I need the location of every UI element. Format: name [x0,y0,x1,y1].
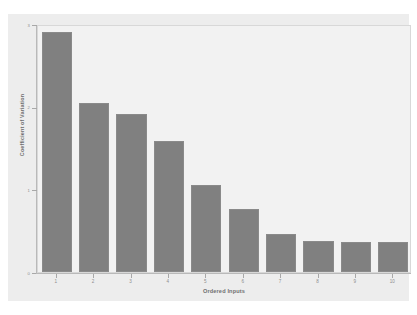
bar [79,103,109,272]
x-axis-tick-label: 9 [343,279,367,285]
y-axis-tick-label: 0 [14,271,30,276]
y-axis-line [36,25,37,274]
chart-figure: 0123 Coefficient of Variation 1234567891… [0,0,417,315]
x-axis-tick-label: 8 [306,279,330,285]
bar [266,234,296,272]
x-axis-tick-label: 1 [44,279,68,285]
x-axis-tick-mark [318,274,319,278]
bar [378,242,408,272]
bars-layer [38,26,410,272]
y-axis-tick-mark [32,190,37,191]
bar [191,185,221,272]
plot-area [37,25,411,273]
x-axis-tick-mark [93,274,94,278]
x-axis-tick-label: 2 [81,279,105,285]
x-axis-tick-label: 7 [268,279,292,285]
bar [116,114,146,272]
x-axis-tick-mark [243,274,244,278]
x-axis-tick-label: 10 [380,279,404,285]
x-axis-title: Ordered Inputs [37,288,411,294]
x-axis-tick-mark [56,274,57,278]
figure-canvas: 0123 Coefficient of Variation 1234567891… [8,14,409,301]
y-axis-tick-label: 3 [14,23,30,28]
bar [303,241,333,272]
bar [42,32,72,272]
x-axis-tick-label: 3 [119,279,143,285]
y-axis-title: Coefficient of Variation [19,70,25,180]
bar [341,242,371,272]
y-axis-tick-mark [32,108,37,109]
x-axis-tick-mark [280,274,281,278]
x-axis-tick-label: 4 [156,279,180,285]
bar [154,141,184,272]
x-axis-tick-mark [131,274,132,278]
x-axis-tick-label: 6 [231,279,255,285]
y-axis-tick-mark [32,25,37,26]
x-axis-tick-mark [355,274,356,278]
x-axis-tick-mark [205,274,206,278]
x-axis-tick-label: 5 [193,279,217,285]
y-axis-tick-label: 1 [14,188,30,193]
bar [229,209,259,272]
x-axis-tick-mark [168,274,169,278]
x-axis-tick-mark [392,274,393,278]
